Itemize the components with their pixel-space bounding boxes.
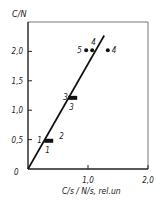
data-point-label: 4: [91, 38, 96, 47]
y-tick-label: 2,0: [12, 47, 24, 56]
data-points: 12133544: [37, 38, 117, 155]
x-axis-label: C/s / N/s, rel.un: [62, 186, 121, 196]
y-axis-label: C/N: [12, 9, 26, 19]
data-point-marker: [68, 96, 77, 100]
data-point-label: 2: [59, 132, 64, 141]
origin-label: 0: [14, 168, 19, 177]
x-ticks: 1,02,0: [82, 165, 154, 185]
data-point-marker: [44, 139, 53, 143]
chart-container: 0,51,01,52,0 1,02,0 C/N C/s / N/s, rel.u…: [0, 0, 162, 207]
y-ticks: 0,51,01,52,0: [12, 47, 32, 144]
data-point-label: 1: [37, 136, 42, 145]
data-point-label: 3: [69, 103, 74, 112]
data-point-label: 4: [112, 46, 117, 55]
y-tick-label: 1,5: [12, 77, 24, 86]
data-point-marker: [90, 48, 94, 52]
data-point-label: 5: [77, 46, 82, 55]
data-point-label: 1: [45, 146, 50, 155]
y-tick-label: 1,0: [12, 106, 24, 115]
x-tick-label: 1,0: [82, 176, 94, 185]
fit-line: [28, 36, 104, 169]
data-point-marker: [106, 48, 110, 52]
data-point-label: 3: [63, 93, 68, 102]
y-tick-label: 0,5: [12, 136, 24, 145]
x-tick-label: 2,0: [142, 176, 154, 185]
data-point-marker: [84, 48, 88, 52]
chart-svg: 0,51,01,52,0 1,02,0 C/N C/s / N/s, rel.u…: [0, 0, 162, 207]
